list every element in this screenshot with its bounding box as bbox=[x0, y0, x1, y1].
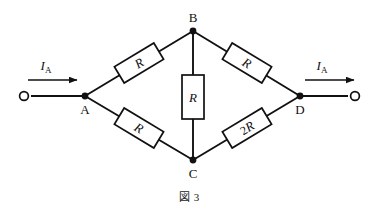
node-dot-a bbox=[82, 93, 89, 100]
figure-caption-number: 3 bbox=[194, 191, 200, 203]
figure-caption-label: 図 bbox=[179, 191, 190, 203]
node-label-a: A bbox=[80, 102, 90, 117]
output-current-subscript: A bbox=[321, 65, 328, 75]
resistor-bd: R bbox=[222, 43, 271, 83]
node-dot-d bbox=[297, 93, 304, 100]
resistor-ab: R bbox=[114, 43, 163, 83]
resistor-cd: 2R bbox=[222, 108, 271, 148]
circuit-figure: R R R R 2R A B C bbox=[0, 0, 378, 214]
node-dot-b bbox=[190, 28, 197, 35]
node-label-c: C bbox=[189, 166, 198, 181]
right-terminal bbox=[351, 92, 360, 101]
node-label-b: B bbox=[189, 10, 198, 25]
bridge-circuit-diagram: R R R R 2R A B C bbox=[0, 0, 378, 214]
node-dot-c bbox=[190, 157, 197, 164]
resistor-ac: R bbox=[114, 108, 163, 148]
resistor-bc: R bbox=[182, 75, 204, 119]
node-label-d: D bbox=[295, 102, 304, 117]
resistor-bc-label: R bbox=[188, 90, 197, 105]
figure-caption: 図3 bbox=[179, 191, 200, 203]
output-current-label: IA bbox=[316, 58, 328, 75]
input-current-subscript: A bbox=[45, 65, 52, 75]
input-current-label: IA bbox=[40, 58, 52, 75]
left-terminal bbox=[20, 92, 29, 101]
